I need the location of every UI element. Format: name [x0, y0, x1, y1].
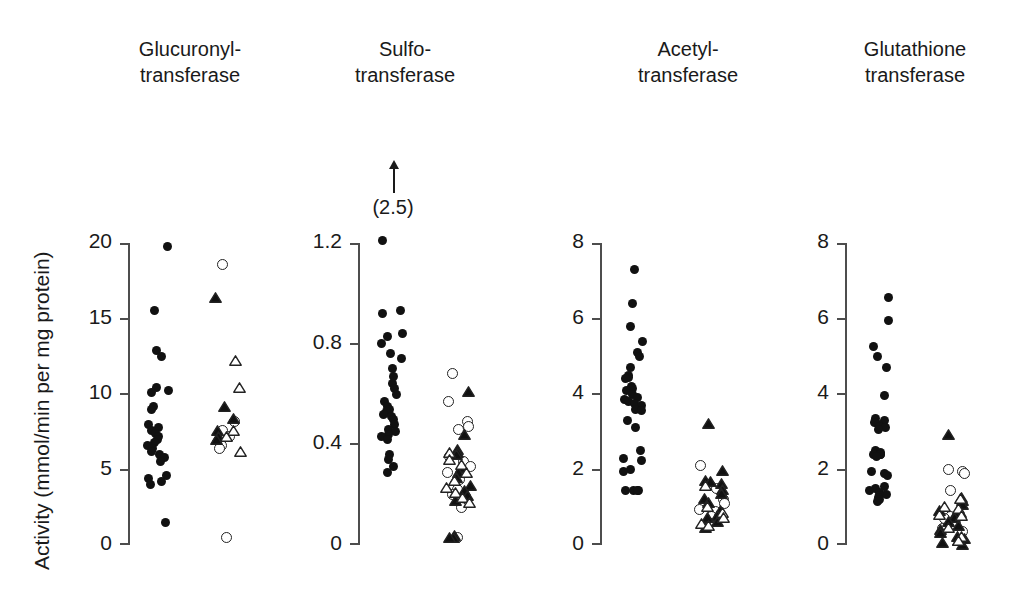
data-point-filled-circle — [161, 518, 170, 527]
y-axis-tick-label: 0 — [58, 531, 112, 555]
data-point-filled-circle — [398, 329, 407, 338]
y-axis-tick-label: 0.8 — [288, 330, 342, 354]
data-point-filled-circle — [873, 352, 882, 361]
data-point-filled-circle — [872, 452, 881, 461]
data-point-filled-circle — [626, 322, 635, 331]
data-point-filled-circle — [383, 468, 392, 477]
data-point-open-circle — [943, 464, 954, 475]
data-point-filled-triangle — [227, 410, 240, 421]
data-point-filled-circle — [623, 416, 632, 425]
y-axis-tick — [592, 318, 600, 320]
data-point-filled-circle — [884, 293, 893, 302]
y-axis-tick-label: 4 — [530, 380, 584, 404]
y-axis-tick — [837, 318, 845, 320]
y-axis-tick-label: 0 — [288, 531, 342, 555]
data-point-filled-circle — [383, 435, 392, 444]
data-point-filled-triangle — [936, 534, 949, 545]
data-point-filled-circle — [874, 425, 883, 434]
data-point-filled-circle — [882, 363, 891, 372]
data-point-open-triangle — [229, 352, 242, 363]
y-axis-tick-label: 8 — [775, 229, 829, 253]
data-point-filled-circle — [156, 457, 165, 466]
data-point-filled-circle — [881, 423, 890, 432]
data-point-filled-circle — [619, 454, 628, 463]
data-point-filled-circle — [638, 337, 647, 346]
data-point-filled-circle — [628, 299, 637, 308]
data-point-open-triangle — [463, 494, 476, 505]
data-point-filled-circle — [147, 405, 156, 414]
data-point-filled-triangle — [702, 415, 715, 426]
y-axis-tick — [120, 469, 128, 471]
panel-title-glutathione-transferase: Glutathione transferase — [800, 36, 1028, 88]
data-point-filled-circle — [635, 352, 644, 361]
y-axis-tick — [837, 393, 845, 395]
data-point-filled-circle — [147, 388, 156, 397]
data-point-filled-circle — [865, 486, 874, 495]
data-point-filled-circle — [150, 306, 159, 315]
data-point-filled-circle — [636, 446, 645, 455]
y-axis-spine — [845, 243, 847, 545]
data-point-filled-triangle — [942, 426, 955, 437]
y-axis-tick-label: 6 — [775, 305, 829, 329]
data-point-filled-circle — [633, 486, 642, 495]
data-point-open-triangle — [717, 509, 730, 520]
data-point-filled-circle — [397, 354, 406, 363]
y-axis-tick — [350, 343, 358, 345]
data-point-open-circle — [447, 368, 458, 379]
off-scale-value-label: (2.5) — [338, 196, 448, 219]
y-axis-tick — [592, 469, 600, 471]
data-point-filled-circle — [637, 456, 646, 465]
y-axis-tick-label: 0 — [775, 531, 829, 555]
data-point-filled-circle — [884, 316, 893, 325]
data-point-filled-circle — [386, 349, 395, 358]
y-axis-tick-label: 8 — [530, 229, 584, 253]
data-point-filled-circle — [869, 342, 878, 351]
data-point-filled-circle — [392, 390, 401, 399]
data-point-open-circle — [695, 460, 706, 471]
y-axis-bottom-cap — [120, 543, 128, 545]
panel-title-sulfotransferase: Sulfo- transferase — [305, 36, 505, 88]
data-point-filled-triangle — [716, 462, 729, 473]
data-point-filled-circle — [157, 352, 166, 361]
data-point-open-triangle — [702, 517, 715, 528]
y-axis-tick-label: 2 — [530, 456, 584, 480]
data-point-open-circle — [221, 532, 232, 543]
y-axis-bottom-cap — [837, 543, 845, 545]
data-point-open-triangle — [942, 519, 955, 530]
data-point-filled-triangle — [462, 383, 475, 394]
data-point-filled-triangle — [458, 426, 471, 437]
data-point-open-circle — [959, 468, 970, 479]
data-point-open-triangle — [220, 428, 233, 439]
data-point-filled-triangle — [209, 289, 222, 300]
y-axis-tick-label: 0 — [530, 531, 584, 555]
y-axis-tick-label: 2 — [775, 456, 829, 480]
y-axis-tick-label: 4 — [775, 380, 829, 404]
data-point-filled-circle — [619, 467, 628, 476]
data-point-open-triangle — [443, 451, 456, 462]
y-axis-tick — [350, 443, 358, 445]
data-point-filled-triangle — [218, 398, 231, 409]
data-point-filled-triangle — [715, 485, 728, 496]
data-point-filled-circle — [631, 423, 640, 432]
y-axis-tick-label: 1.2 — [288, 229, 342, 253]
data-point-open-triangle — [952, 532, 965, 543]
data-point-open-triangle — [955, 507, 968, 518]
data-point-filled-circle — [873, 497, 882, 506]
data-point-filled-circle — [378, 309, 387, 318]
data-point-filled-circle — [164, 386, 173, 395]
y-axis-tick-label: 5 — [58, 456, 112, 480]
y-axis-top-cap — [350, 243, 358, 245]
data-point-filled-circle — [146, 480, 155, 489]
data-point-filled-circle — [157, 477, 166, 486]
y-axis-tick — [592, 393, 600, 395]
y-axis-tick — [837, 469, 845, 471]
y-axis-spine — [600, 243, 602, 545]
data-point-open-triangle — [460, 464, 473, 475]
data-point-open-triangle — [699, 477, 712, 488]
y-axis-tick-label: 20 — [58, 229, 112, 253]
data-point-filled-circle — [880, 391, 889, 400]
y-axis-label: Activity (mmol/min per mg protein) — [30, 251, 54, 570]
data-point-filled-circle — [378, 236, 387, 245]
data-point-open-circle — [443, 396, 454, 407]
y-axis-tick-label: 15 — [58, 305, 112, 329]
